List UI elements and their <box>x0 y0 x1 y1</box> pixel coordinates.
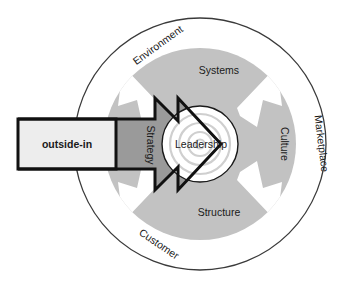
label-structure: Structure <box>198 206 241 218</box>
outside-in-model-diagram: Environment Marketplace Customer Systems… <box>0 0 353 286</box>
diagram-canvas: Environment Marketplace Customer Systems… <box>0 0 353 286</box>
label-leadership: Leadership <box>175 138 227 150</box>
label-culture: Culture <box>279 127 291 161</box>
label-systems: Systems <box>199 64 239 76</box>
label-outside-in: outside-in <box>42 138 92 150</box>
label-strategy: Strategy <box>145 125 157 165</box>
